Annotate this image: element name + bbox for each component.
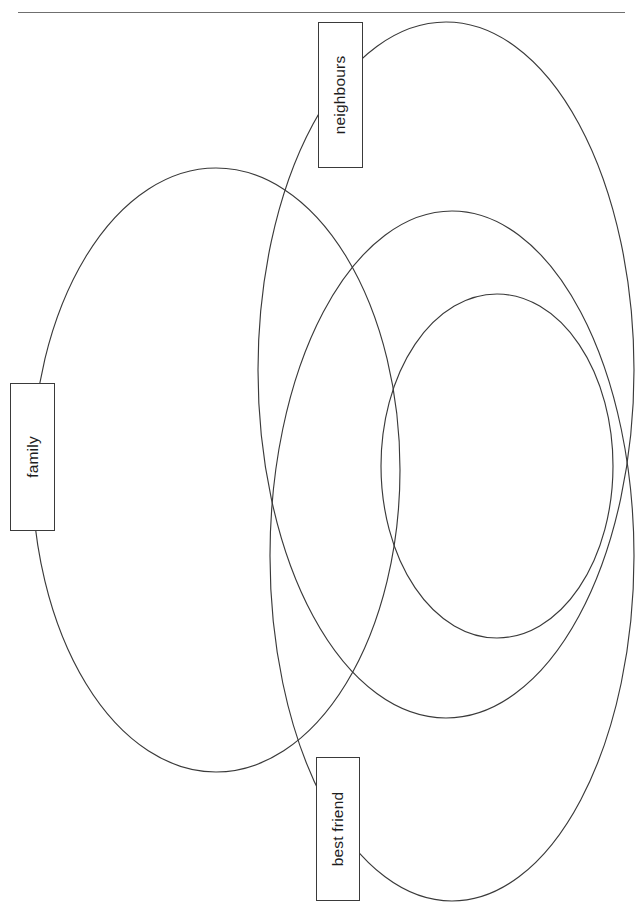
set-label-best-friend-text: best friend [329,792,347,867]
set-label-neighbours[interactable]: neighbours [318,22,363,168]
set-label-best-friend[interactable]: best friend [316,757,360,901]
ellipse-neighbours [258,22,634,718]
ellipse-inner [381,294,613,638]
ellipse-family [32,168,400,772]
set-label-neighbours-text: neighbours [332,56,350,135]
set-label-family[interactable]: family [10,383,55,531]
worksheet-page: neighbours family best friend [0,0,643,911]
set-label-family-text: family [24,436,42,478]
